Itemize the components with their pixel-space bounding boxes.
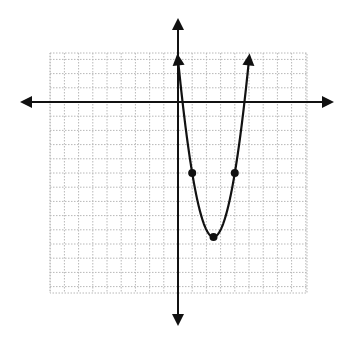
parabola-curve [173,53,255,236]
arrow-down-icon [172,314,184,326]
arrow-right-icon [322,96,334,108]
parabola-graph [0,0,351,348]
arrow-up-icon [172,18,184,30]
point-marker [231,169,239,177]
point-marker [188,169,196,177]
arrow-left-icon [20,96,32,108]
point-marker [210,233,218,241]
curve-end-arrow-icon [242,53,254,66]
